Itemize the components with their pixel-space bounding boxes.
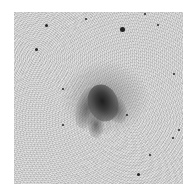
star xyxy=(149,154,151,156)
galaxy-image xyxy=(14,12,183,184)
star xyxy=(35,48,38,51)
star xyxy=(172,137,174,139)
star xyxy=(45,24,48,27)
star xyxy=(120,27,125,32)
star xyxy=(85,18,87,20)
star xyxy=(62,88,64,90)
star xyxy=(157,24,159,26)
star xyxy=(126,114,128,116)
star xyxy=(137,173,140,176)
star xyxy=(173,73,175,75)
star xyxy=(62,124,64,126)
